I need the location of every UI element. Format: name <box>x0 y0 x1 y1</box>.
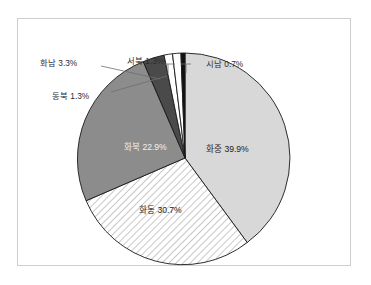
slice-label-xinan: 시남 0.7% <box>206 59 244 69</box>
pie-chart-figure: 화남 3.3% 동북 1.3% 서북 1.3% 시남 0.7% 화중 39.9%… <box>0 0 371 285</box>
slice-label-huazhong: 화중 39.9% <box>206 144 249 154</box>
slice-label-xibei: 서북 1.3% <box>127 56 165 66</box>
slice-label-huabei: 화북 22.9% <box>124 142 167 152</box>
slice-label-huanan: 화남 3.3% <box>40 58 78 68</box>
pie-chart-svg: 화남 3.3% 동북 1.3% 서북 1.3% 시남 0.7% 화중 39.9%… <box>0 0 371 285</box>
slice-label-dongbei: 동북 1.3% <box>52 91 90 101</box>
slice-label-huadong: 화동 30.7% <box>139 205 182 215</box>
